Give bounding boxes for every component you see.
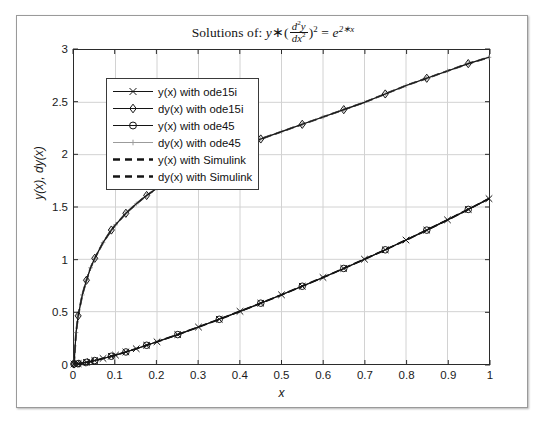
y-tick-label: 2.5	[37, 96, 68, 108]
y-tick-label: 0	[37, 359, 68, 371]
legend-item[interactable]: y(x) with Simulink	[112, 151, 252, 168]
x-tick-label: 0.9	[440, 369, 456, 381]
title-paren-exponent: 2	[313, 24, 318, 34]
x-tick-label: 0.4	[232, 369, 248, 381]
title-open-paren: (	[284, 25, 289, 40]
title-times: ∗	[272, 25, 284, 40]
legend-item[interactable]: y(x) with ode15i	[112, 83, 252, 100]
legend-item[interactable]: y(x) with ode45	[112, 117, 252, 134]
legend-label: dy(x) with ode15i	[158, 103, 243, 115]
y-tick-label: 0.5	[37, 306, 68, 318]
legend-label: y(x) with ode15i	[158, 86, 237, 98]
y-axis-label: y(x), dy(x)	[32, 113, 46, 233]
legend-label: dy(x) with Simulink	[158, 171, 252, 183]
chart-title: Solutions of: y∗(d2ydx2)2 = e2∗x	[17, 21, 529, 45]
legend: y(x) with ode15idy(x) with ode15iy(x) wi…	[106, 78, 259, 190]
legend-item[interactable]: dy(x) with Simulink	[112, 168, 252, 185]
y-tick-label: 1	[37, 254, 68, 266]
title-equals: =	[321, 25, 329, 40]
x-tick-label: 0.5	[274, 369, 290, 381]
title-prefix: Solutions of:	[192, 25, 263, 40]
legend-marker-none-icon	[112, 152, 154, 167]
x-tick-label: 0.1	[107, 369, 123, 381]
fraction-denominator: dx2	[290, 33, 308, 44]
x-axis-label: x	[73, 386, 490, 400]
title-e-exponent: 2∗x	[339, 24, 355, 34]
x-tick-label: 0.7	[357, 369, 373, 381]
x-tick-label: 0.3	[190, 369, 206, 381]
legend-item[interactable]: dy(x) with ode15i	[112, 100, 252, 117]
legend-label: dy(x) with ode45	[158, 137, 241, 149]
x-tick-label: 0.8	[399, 369, 415, 381]
figure-window: Solutions of: y∗(d2ydx2)2 = e2∗x 00.10.2…	[16, 15, 528, 408]
legend-marker-diamond-icon	[112, 101, 154, 116]
legend-item[interactable]: dy(x) with ode45	[112, 134, 252, 151]
x-tick-label: 1	[487, 369, 493, 381]
legend-label: y(x) with Simulink	[158, 154, 246, 166]
numerator-y: y	[301, 20, 306, 32]
y-tick-label: 3	[37, 43, 68, 55]
legend-marker-plus-icon	[112, 135, 154, 150]
x-tick-label: 0.6	[315, 369, 331, 381]
legend-marker-none-icon	[112, 169, 154, 184]
legend-marker-x-mark-icon	[112, 84, 154, 99]
denominator-exponent: 2	[302, 32, 306, 40]
title-fraction: d2ydx2	[290, 21, 308, 45]
legend-label: y(x) with ode45	[158, 120, 235, 132]
legend-marker-circle-icon	[112, 118, 154, 133]
x-tick-label: 0	[70, 369, 76, 381]
x-tick-label: 0.2	[148, 369, 164, 381]
